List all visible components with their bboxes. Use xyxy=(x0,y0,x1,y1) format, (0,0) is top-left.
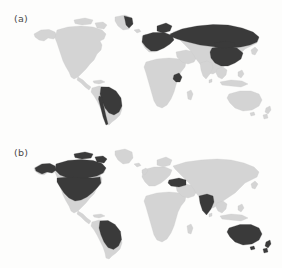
world-map-svg-a xyxy=(26,8,276,128)
land-new-zealand-south xyxy=(263,114,268,119)
panel-b-map xyxy=(26,142,276,262)
panel-b: (b) xyxy=(0,134,282,268)
land-central-america xyxy=(77,211,91,224)
land-iceland xyxy=(134,29,141,33)
land-madagascar xyxy=(187,224,193,234)
highlight-arctic-islands xyxy=(74,152,93,159)
land-iceland xyxy=(134,163,141,167)
land-southeast-asia xyxy=(216,67,227,79)
land-philippines xyxy=(238,70,244,78)
land-caribbean xyxy=(93,80,105,84)
highlight-china xyxy=(210,46,243,66)
land-africa xyxy=(144,58,186,108)
land-sri-lanka xyxy=(209,79,212,83)
land-australia xyxy=(227,91,262,111)
land-baffin xyxy=(95,22,107,29)
land-arctic-islands xyxy=(74,18,93,25)
land-india-base xyxy=(200,61,213,79)
highlight-new-zealand-north xyxy=(265,240,271,248)
land-new-zealand xyxy=(265,106,271,114)
land-alaska xyxy=(34,30,57,42)
land-japan xyxy=(251,47,258,55)
world-map-svg-b xyxy=(26,142,276,262)
highlight-india xyxy=(199,194,214,215)
land-africa xyxy=(144,192,186,242)
land-north-america xyxy=(55,26,106,79)
land-greenland xyxy=(115,149,133,164)
highlight-united-states xyxy=(57,177,101,201)
land-scandinavia xyxy=(157,157,172,167)
highlight-turkey xyxy=(168,178,186,187)
highlight-tasmania xyxy=(250,246,255,250)
land-indonesia xyxy=(220,214,248,221)
land-southeast-asia xyxy=(216,201,227,213)
land-sri-lanka xyxy=(209,213,212,217)
land-tasmania xyxy=(250,112,255,116)
land-philippines xyxy=(238,204,244,212)
highlight-scandinavia xyxy=(157,23,172,33)
panel-a: (a) xyxy=(0,0,282,134)
land-indonesia xyxy=(220,80,248,87)
panel-a-map xyxy=(26,8,276,128)
land-caribbean xyxy=(93,214,105,218)
highlight-australia xyxy=(227,225,262,246)
land-japan xyxy=(251,181,258,189)
land-madagascar xyxy=(187,90,193,100)
figure-two-panel-world-maps: (a) xyxy=(0,0,282,268)
highlight-new-zealand-south xyxy=(263,248,268,253)
land-central-america xyxy=(77,77,91,90)
